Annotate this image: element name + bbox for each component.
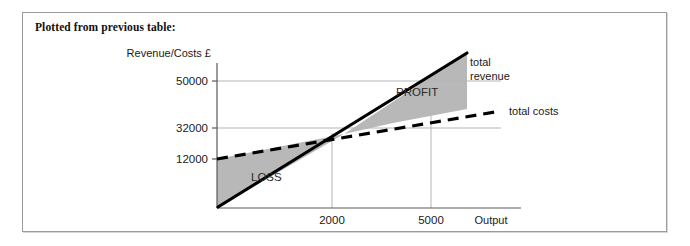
total-revenue-label-line2: revenue	[470, 70, 510, 82]
x-axis-title: Output	[474, 214, 507, 226]
loss-label: LOSS	[251, 171, 282, 183]
total-revenue-label-line1: total	[470, 56, 491, 68]
break-even-chart: Revenue/Costs £ 50000 32000 12000 2000 5…	[23, 13, 668, 233]
chart-svg: Revenue/Costs £ 50000 32000 12000 2000 5…	[23, 13, 668, 233]
x-tick-label-2000: 2000	[319, 214, 345, 226]
y-tick-label-50000: 50000	[176, 75, 208, 87]
y-axis-title: Revenue/Costs £	[127, 47, 211, 59]
screenshot-root: Plotted from previous table:	[0, 0, 690, 246]
tick-marks	[212, 81, 217, 159]
figure-frame: Plotted from previous table:	[22, 12, 667, 232]
y-tick-label-32000: 32000	[176, 122, 208, 134]
axes	[217, 63, 521, 208]
x-tick-label-5000: 5000	[418, 214, 444, 226]
y-tick-label-12000: 12000	[176, 153, 208, 165]
total-costs-label: total costs	[509, 105, 559, 117]
total-revenue-line	[218, 53, 467, 207]
profit-label: PROFIT	[396, 86, 438, 98]
